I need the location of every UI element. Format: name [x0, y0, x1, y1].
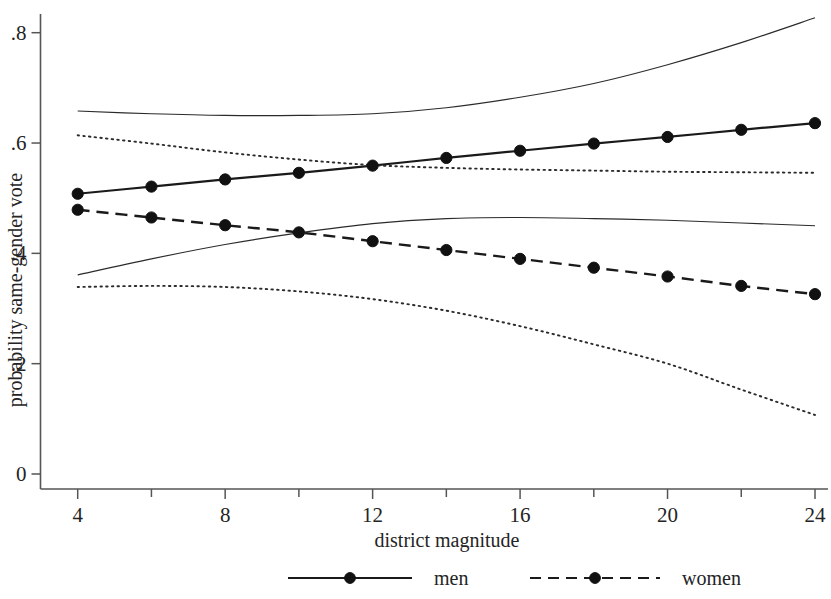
data-point-women-8: [220, 220, 231, 231]
y-tick-label-0: 0: [16, 462, 27, 486]
data-point-women-24: [809, 289, 820, 300]
chart-figure: 0.2.4.6.8 4812162024 district magnitude …: [0, 0, 831, 599]
x-tick-label-2: 12: [362, 503, 383, 527]
data-point-men-4: [72, 188, 83, 199]
data-point-women-6: [146, 212, 157, 223]
axes-group: 0.2.4.6.8 4812162024: [11, 14, 828, 527]
data-point-men-6: [146, 181, 157, 192]
legend-marker-women: [590, 573, 601, 584]
y-axis-ticks: [32, 33, 41, 474]
series-women-ci-lower: [78, 286, 815, 415]
x-axis-tick-labels: 4812162024: [72, 503, 826, 527]
x-tick-label-5: 24: [805, 503, 827, 527]
y-tick-label-3: .6: [11, 131, 27, 155]
chart-legend: menwomen: [288, 567, 741, 589]
data-point-men-14: [441, 152, 452, 163]
legend-label-men: men: [434, 567, 468, 589]
data-point-men-12: [367, 160, 378, 171]
data-point-women-18: [588, 262, 599, 273]
data-point-men-10: [293, 167, 304, 178]
x-tick-label-0: 4: [72, 503, 83, 527]
y-tick-label-4: .8: [11, 21, 27, 45]
data-point-men-20: [662, 131, 673, 142]
data-point-women-20: [662, 271, 673, 282]
data-point-men-22: [736, 124, 747, 135]
series-men-ci-upper: [78, 18, 815, 116]
data-point-women-14: [441, 244, 452, 255]
data-point-women-16: [514, 253, 525, 264]
x-axis-title: district magnitude: [375, 529, 520, 552]
legend-marker-men: [345, 573, 356, 584]
data-point-women-22: [736, 280, 747, 291]
y-axis-title: probability same-gender vote: [4, 173, 27, 407]
data-point-men-8: [220, 174, 231, 185]
x-tick-label-3: 16: [510, 503, 531, 527]
data-point-women-12: [367, 236, 378, 247]
data-point-women-10: [293, 227, 304, 238]
legend-label-women: women: [682, 567, 741, 589]
data-point-men-18: [588, 138, 599, 149]
data-point-men-24: [809, 118, 820, 129]
data-point-women-4: [72, 204, 83, 215]
series-layer: [78, 18, 815, 415]
marker-layer: [72, 118, 821, 300]
data-point-men-16: [514, 145, 525, 156]
x-tick-label-4: 20: [657, 503, 678, 527]
x-axis-ticks: [78, 489, 815, 499]
x-tick-label-1: 8: [220, 503, 231, 527]
chart-canvas: 0.2.4.6.8 4812162024 district magnitude …: [0, 0, 831, 599]
